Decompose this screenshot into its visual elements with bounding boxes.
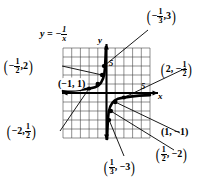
label-point-2-neg-half: (2, −12): [160, 61, 193, 79]
open-paren: (: [147, 8, 151, 25]
close-paren: ): [188, 61, 192, 78]
label-point-neg-third-3: (−13,3): [146, 8, 177, 26]
label-point-neg2-half: (−2,12): [6, 123, 37, 141]
point-neg1-1: [96, 82, 101, 87]
x-axis-tick-5: 5: [141, 82, 145, 91]
open-paren: (: [156, 146, 160, 163]
close-paren: ): [183, 146, 187, 163]
leader-neg-half-2: [62, 66, 102, 75]
denominator: 2: [181, 69, 187, 78]
equation-equals: =: [47, 28, 53, 39]
open-paren: (: [4, 58, 8, 75]
numerator: 1: [181, 61, 187, 69]
y-value: , −2: [167, 148, 183, 159]
open-paren: (: [104, 159, 108, 176]
numerator: 1: [157, 8, 163, 16]
denominator: 2: [14, 66, 20, 75]
label-point-half-neg2: (12, −2): [155, 146, 188, 164]
equation-fraction: 1x: [61, 26, 67, 44]
y-value: 3: [166, 10, 171, 21]
fraction: 12: [181, 61, 187, 79]
label-point-neg1-1: (−1, 1): [57, 79, 86, 89]
equation-lhs: y: [40, 28, 44, 39]
x-value: 2, −: [166, 63, 182, 74]
y-axis-label: y: [98, 36, 102, 45]
label-point-third-neg3: (13, −3): [103, 159, 136, 177]
close-paren: ): [172, 8, 176, 25]
fraction: 12: [161, 146, 167, 164]
label-point-neg-half-2: (−12,2): [3, 58, 34, 76]
open-paren: (: [161, 61, 165, 78]
fraction: 12: [14, 58, 20, 76]
numerator: 1: [14, 58, 20, 66]
close-paren: ): [131, 159, 135, 176]
fraction: 13: [109, 159, 115, 177]
y-axis-tick-5: 5: [109, 59, 113, 68]
numerator: 1: [161, 146, 167, 154]
equation-numerator: 1: [61, 26, 67, 34]
equation-denominator: x: [61, 34, 67, 43]
x-value: −2,: [12, 125, 25, 136]
equation-label: y = −1x: [40, 26, 67, 44]
numerator: 1: [109, 159, 115, 167]
numerator: 1: [25, 123, 31, 131]
close-paren: ): [32, 123, 36, 140]
fraction: 12: [25, 123, 31, 141]
denominator: 3: [157, 16, 163, 25]
open-paren: (: [7, 123, 11, 140]
denominator: 2: [25, 131, 31, 140]
leader-neg2-half: [60, 89, 89, 132]
y-value: , −3: [115, 161, 131, 172]
x-axis-label: x: [158, 92, 163, 101]
y-value: 2: [23, 60, 28, 71]
fraction: 13: [157, 8, 163, 26]
close-paren: ): [29, 58, 33, 75]
denominator: 2: [161, 154, 167, 163]
denominator: 3: [109, 167, 115, 176]
label-point-1-neg1: (1, −1): [161, 127, 188, 137]
